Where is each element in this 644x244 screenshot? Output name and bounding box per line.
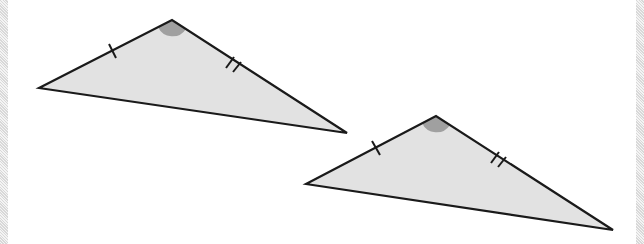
triangle-2 (306, 116, 613, 230)
triangle-1 (39, 20, 347, 133)
congruent-triangles-diagram (0, 0, 644, 244)
